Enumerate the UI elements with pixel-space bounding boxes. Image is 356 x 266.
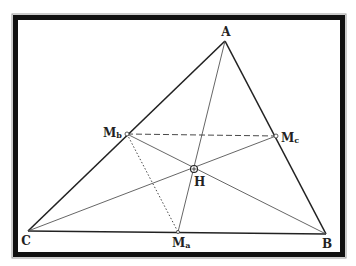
point-Mc-marker [274,134,278,138]
label-C: C [21,234,31,248]
point-Ma-marker [177,231,180,234]
point-Mb-marker [125,132,129,136]
label-A: A [220,25,231,39]
label-B: B [322,237,332,251]
triangle-diagram: A B C Ma Mb Mc H [0,0,356,266]
label-H: H [194,175,205,189]
